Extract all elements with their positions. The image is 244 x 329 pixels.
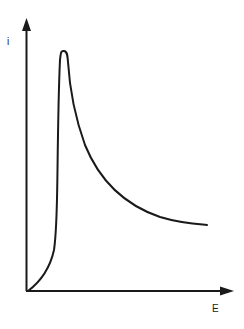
x-axis-arrow-icon — [220, 287, 234, 296]
x-axis-label: E — [212, 303, 219, 314]
x-axis — [26, 287, 234, 296]
chart-canvas — [0, 0, 244, 329]
y-axis — [22, 18, 31, 291]
y-axis-arrow-icon — [22, 18, 31, 31]
data-curve — [28, 51, 207, 291]
y-axis-label: i — [7, 36, 9, 47]
